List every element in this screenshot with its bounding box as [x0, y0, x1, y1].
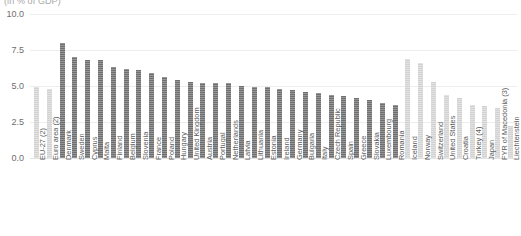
x-axis-category-label: Hungary	[180, 132, 188, 160]
category-slot: Japan	[478, 160, 491, 236]
category-slot: Bulgaria	[299, 160, 312, 236]
x-axis-category-label: Greece	[360, 136, 368, 160]
x-axis-category-label: Italy	[321, 146, 329, 160]
category-slot: Italy	[312, 160, 325, 236]
x-axis-category-label: Slovenia	[142, 132, 150, 160]
category-slot: Slovenia	[133, 160, 146, 236]
category-slot: EU-27 (2)	[30, 160, 43, 236]
category-slot: Greece	[350, 160, 363, 236]
x-axis-category-label: Finland	[116, 136, 124, 160]
category-slot: Liechtenstein	[504, 160, 517, 236]
category-slot: Finland	[107, 160, 120, 236]
y-axis-tick-label: 7.5	[11, 45, 24, 55]
x-axis-category-label: United States	[449, 116, 457, 160]
y-axis-tick-label: 0.0	[11, 153, 24, 163]
category-slot: Czech Republic	[325, 160, 338, 236]
category-slot: Denmark	[56, 160, 69, 236]
x-axis-category-label: FYR of Macedonia (3)	[501, 88, 509, 160]
x-axis-category-label: France	[155, 137, 163, 160]
x-axis-category-label: Sweden	[78, 133, 86, 160]
x-axis-category-label: Spain	[347, 141, 355, 160]
category-slot: FYR of Macedonia (3)	[491, 160, 504, 236]
category-slot: Spain	[338, 160, 351, 236]
category-slot: Estonia	[261, 160, 274, 236]
category-slot: Poland	[158, 160, 171, 236]
x-axis-category-label: Norway	[424, 135, 432, 160]
bar-chart: (in % of GDP) 0.02.55.07.510.0 EU-27 (2)…	[0, 0, 521, 236]
category-slot: France	[145, 160, 158, 236]
x-axis-category-label: Turkey (4)	[475, 127, 483, 160]
category-slot: Sweden	[68, 160, 81, 236]
x-axis-category-label: Latvia	[244, 140, 252, 160]
category-slot: Austria	[197, 160, 210, 236]
category-slot: Switzerland	[427, 160, 440, 236]
x-axis-category-label: Slovakia	[373, 132, 381, 160]
category-slot: Iceland	[402, 160, 415, 236]
x-axis-category-label: United Kingdom	[193, 107, 201, 160]
category-slot: Euro area (2)	[43, 160, 56, 236]
x-axis-category-label: Iceland	[411, 136, 419, 160]
chart-subtitle: (in % of GDP)	[4, 0, 61, 6]
category-slot: Malta	[94, 160, 107, 236]
x-axis-category-label: Bulgaria	[308, 133, 316, 160]
x-axis-category-label: Croatia	[462, 136, 470, 160]
category-slot: United States	[440, 160, 453, 236]
x-axis-category-label: Poland	[168, 137, 176, 160]
x-axis-category-label: Austria	[206, 137, 214, 160]
x-axis-category-label: Switzerland	[437, 122, 445, 160]
y-axis-tick-label: 5.0	[11, 81, 24, 91]
category-slot: Cyprus	[81, 160, 94, 236]
x-axis-categories: EU-27 (2)Euro area (2)DenmarkSwedenCypru…	[30, 160, 517, 236]
category-slot: Slovakia	[363, 160, 376, 236]
category-slot: Belgium	[120, 160, 133, 236]
x-axis-category-label: Belgium	[129, 133, 137, 160]
category-slot: Portugal	[209, 160, 222, 236]
x-axis-category-label: Liechtenstein	[513, 116, 521, 160]
x-axis-category-label: Denmark	[65, 130, 73, 160]
x-axis-category-label: Luxembourg	[385, 119, 393, 160]
y-axis-tick-label: 2.5	[11, 117, 24, 127]
x-axis-category-label: Germany	[296, 130, 304, 160]
x-axis-category-label: Cyprus	[91, 137, 99, 160]
category-slot: Romania	[389, 160, 402, 236]
x-axis-category-label: Japan	[488, 140, 496, 160]
y-axis-tick-label: 10.0	[6, 9, 24, 19]
x-axis-category-label: Lithuania	[257, 130, 265, 160]
x-axis-category-label: Estonia	[270, 135, 278, 160]
category-slot: Lithuania	[248, 160, 261, 236]
category-slot: United Kingdom	[184, 160, 197, 236]
category-slot: Hungary	[171, 160, 184, 236]
category-slot: Netherlands	[222, 160, 235, 236]
category-slot: Croatia	[453, 160, 466, 236]
category-slot: Norway	[414, 160, 427, 236]
x-axis-category-label: Ireland	[283, 137, 291, 160]
x-axis-category-label: Romania	[398, 130, 406, 160]
category-slot: Luxembourg	[376, 160, 389, 236]
x-axis-category-label: Euro area (2)	[52, 116, 60, 160]
x-axis-category-label: Netherlands	[232, 120, 240, 160]
x-axis-category-label: Portugal	[219, 132, 227, 160]
x-axis-category-label: EU-27 (2)	[39, 128, 47, 160]
category-slot: Latvia	[235, 160, 248, 236]
category-slot: Turkey (4)	[466, 160, 479, 236]
category-slot: Germany	[286, 160, 299, 236]
x-axis-category-label: Malta	[103, 142, 111, 160]
category-slot: Ireland	[273, 160, 286, 236]
x-axis-category-label: Czech Republic	[334, 108, 342, 160]
